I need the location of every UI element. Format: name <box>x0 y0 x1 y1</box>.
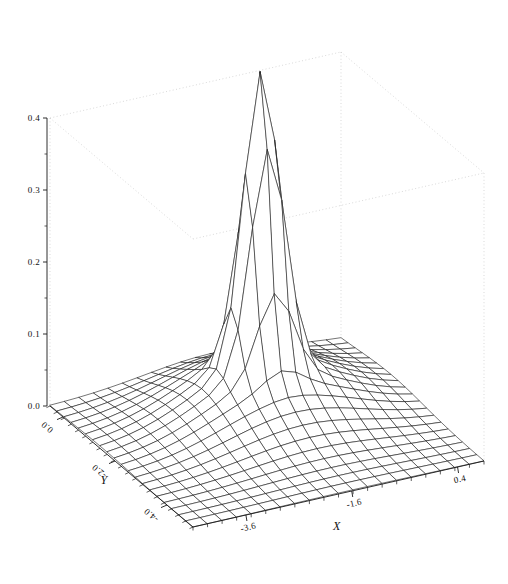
surface-wireframe <box>50 72 484 527</box>
y-tick-label: -4.0 <box>142 506 160 524</box>
x-axis-title: X <box>332 519 341 533</box>
z-tick-label: 0.1 <box>28 329 40 339</box>
z-tick-label: 0.0 <box>28 401 40 411</box>
z-tick-label: 0.3 <box>28 185 40 195</box>
surface-plot-figure: 0.00.10.20.30.4-3.6-1.60.40.0-2.0-4.0XY <box>0 0 508 584</box>
x-tick-label: -3.6 <box>240 520 257 533</box>
z-tick-label: 0.4 <box>28 113 40 123</box>
y-tick-label: 0.0 <box>39 419 55 435</box>
x-tick-label: 0.4 <box>453 473 467 485</box>
plot-canvas: 0.00.10.20.30.4-3.6-1.60.40.0-2.0-4.0XY <box>0 0 508 584</box>
x-tick-label: -1.6 <box>345 496 362 509</box>
y-axis-title: Y <box>101 473 109 487</box>
z-tick-label: 0.2 <box>28 257 40 267</box>
